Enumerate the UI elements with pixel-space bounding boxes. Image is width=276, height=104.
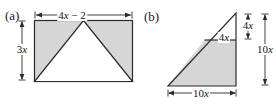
figure-drawing-layer bbox=[0, 0, 276, 104]
dimension-label-b-base: 10x bbox=[192, 88, 210, 99]
dimension-label-b-upper-height: 4x bbox=[242, 20, 254, 31]
panel-b-trapezoid-fill bbox=[168, 40, 236, 86]
dimension-label-b-total-height: 10x bbox=[256, 44, 274, 55]
geometry-figure: (a) (b) bbox=[0, 0, 276, 104]
dimension-label-a-height: 3x bbox=[16, 44, 28, 55]
dimension-label-a-width: 4x − 2 bbox=[57, 10, 87, 21]
dimension-label-b-cut-segment: 4x bbox=[218, 32, 230, 43]
